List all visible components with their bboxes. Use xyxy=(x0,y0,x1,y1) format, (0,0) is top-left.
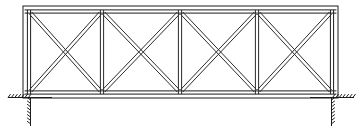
diagonal-down-1 xyxy=(29,12,101,92)
diagonal-up-4 xyxy=(257,12,331,92)
support-left xyxy=(8,94,52,126)
bottom-chord xyxy=(25,91,337,94)
vertical-post-1 xyxy=(27,10,30,94)
vertical-post-5 xyxy=(330,10,333,94)
diagonal-down-2 xyxy=(102,12,179,92)
vertical-post-3 xyxy=(178,10,181,94)
diagonal-up-2 xyxy=(102,12,179,92)
support-right xyxy=(310,94,356,126)
diagonal-down-3 xyxy=(180,12,256,92)
top-chord xyxy=(25,10,337,13)
diagonal-up-1 xyxy=(29,12,101,92)
diagram-canvas xyxy=(0,0,362,129)
truss-root xyxy=(8,6,356,126)
diagonal-up-3 xyxy=(180,12,256,92)
vertical-post-4 xyxy=(255,10,258,94)
vertical-post-2 xyxy=(100,10,103,94)
diagonal-down-4 xyxy=(257,12,331,92)
truss-diagram xyxy=(0,0,362,129)
outer-frame xyxy=(23,6,338,98)
